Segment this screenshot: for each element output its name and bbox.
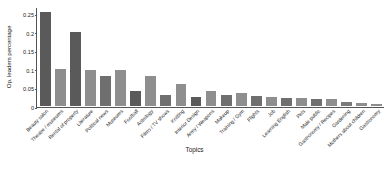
bar-slot: [113, 8, 128, 106]
bar-slot: [128, 8, 143, 106]
bar: [160, 95, 171, 106]
bar: [206, 91, 217, 106]
bar: [356, 103, 367, 106]
x-axis-title: Topics: [0, 146, 389, 153]
bar-slot: [188, 8, 203, 106]
y-tick-label: 0.1: [12, 68, 34, 74]
bar-slot: [279, 8, 294, 106]
bar-slot: [294, 8, 309, 106]
bar: [85, 70, 96, 106]
bar: [311, 99, 322, 106]
bar-slot: [324, 8, 339, 106]
bar: [326, 99, 337, 106]
x-axis-tick-labels: Beauty salonTheatre / museumsRental of p…: [37, 108, 385, 168]
bar: [40, 12, 51, 106]
bar-slot: [249, 8, 264, 106]
bar: [371, 104, 382, 106]
bar-slot: [98, 8, 113, 106]
y-tick-label: 0: [12, 105, 34, 111]
bar: [236, 93, 247, 106]
y-tick-label: 0.05: [12, 86, 34, 92]
bar-slot: [83, 8, 98, 106]
bar-slot: [309, 8, 324, 106]
bar: [221, 95, 232, 106]
bar-slot: [68, 8, 83, 106]
bar: [341, 102, 352, 106]
bar-slot: [173, 8, 188, 106]
bar: [115, 70, 126, 106]
plot-area: [36, 8, 384, 108]
bar-slot: [264, 8, 279, 106]
bar-slot: [234, 8, 249, 106]
bar-series: [38, 8, 384, 106]
bar-slot: [369, 8, 384, 106]
bar-chart: Op. leaders percentage 00.050.10.150.20.…: [0, 0, 389, 179]
bar: [145, 76, 156, 106]
bar: [251, 96, 262, 106]
bar: [281, 98, 292, 106]
y-tick-label: 0.25: [12, 12, 34, 18]
bar: [176, 84, 187, 106]
bar: [70, 32, 81, 106]
y-tick-label: 0.2: [12, 31, 34, 37]
bar: [266, 97, 277, 106]
bar-slot: [339, 8, 354, 106]
bar: [296, 98, 307, 106]
y-tick-label: 0.15: [12, 49, 34, 55]
bar-slot: [53, 8, 68, 106]
bar-slot: [204, 8, 219, 106]
bar: [130, 91, 141, 106]
bar: [100, 76, 111, 106]
bar-slot: [219, 8, 234, 106]
bar-slot: [143, 8, 158, 106]
bar-slot: [38, 8, 53, 106]
bar-slot: [158, 8, 173, 106]
bar-slot: [354, 8, 369, 106]
bar: [55, 69, 66, 106]
bar: [191, 97, 202, 106]
